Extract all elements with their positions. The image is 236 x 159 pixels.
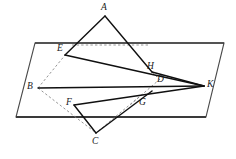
vertex-label-G: G	[139, 98, 146, 108]
vertex-label-A: A	[101, 3, 107, 13]
vertex-label-K: K	[207, 80, 213, 90]
vertex-label-D: D	[157, 75, 164, 85]
vertex-label-F: F	[66, 98, 72, 108]
segment-B-K	[38, 86, 204, 88]
vertex-label-H: H	[147, 62, 154, 72]
plane-parallelogram	[16, 43, 224, 117]
segment-F-C	[74, 105, 96, 133]
segment-B-E-dashed	[38, 54, 66, 88]
geometry-canvas	[0, 0, 236, 159]
vertex-label-B: B	[27, 82, 33, 92]
vertex-label-C: C	[92, 137, 98, 147]
segment-A-H	[105, 16, 152, 72]
vertex-label-E: E	[57, 44, 63, 54]
segment-A-E	[65, 16, 105, 55]
segment-E-K	[65, 55, 204, 86]
segment-B-F-dashed	[38, 88, 96, 133]
geometry-figure: A B C D E F G H K	[0, 0, 236, 159]
